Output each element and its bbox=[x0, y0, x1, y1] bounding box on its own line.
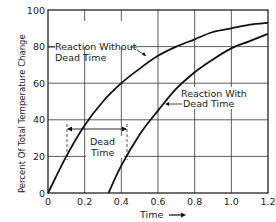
dead-time-line2: Time bbox=[90, 147, 114, 158]
annotation-without-line1: Reaction Without bbox=[55, 41, 137, 52]
arrow-right-icon bbox=[181, 213, 186, 218]
x-tick-label: 0.8 bbox=[187, 196, 202, 207]
annotation-without-line2: Dead Time bbox=[55, 52, 106, 63]
arrow-left-icon bbox=[67, 127, 72, 132]
x-axis-ticks: 00.20.40.60.81.01.2 bbox=[45, 196, 276, 207]
chart: 00.20.40.60.81.01.2 020406080100 Reactio… bbox=[0, 0, 276, 222]
y-tick-label: 0 bbox=[39, 188, 45, 199]
x-axis-label: Time bbox=[139, 209, 163, 220]
x-tick-label: 0 bbox=[45, 196, 51, 207]
curve-with-dead-time bbox=[109, 34, 269, 193]
x-tick-label: 1.0 bbox=[224, 196, 239, 207]
arrow-right-icon bbox=[122, 127, 127, 132]
x-tick-label: 0.6 bbox=[150, 196, 165, 207]
y-axis-label: Percent Of Total Temperature Change bbox=[17, 34, 27, 193]
y-tick-label: 100 bbox=[27, 5, 45, 16]
dead-time-line1: Dead bbox=[90, 136, 115, 147]
y-axis-ticks: 020406080100 bbox=[27, 5, 45, 199]
x-tick-label: 1.2 bbox=[260, 196, 275, 207]
annotation-with-line2: Dead Time bbox=[183, 98, 234, 109]
x-tick-label: 0.4 bbox=[114, 196, 129, 207]
x-tick-label: 0.2 bbox=[77, 196, 92, 207]
y-tick-label: 40 bbox=[33, 114, 45, 125]
y-tick-label: 60 bbox=[33, 78, 45, 89]
y-tick-label: 20 bbox=[33, 151, 45, 162]
arrow-head-icon bbox=[165, 102, 169, 106]
y-tick-label: 80 bbox=[33, 41, 45, 52]
